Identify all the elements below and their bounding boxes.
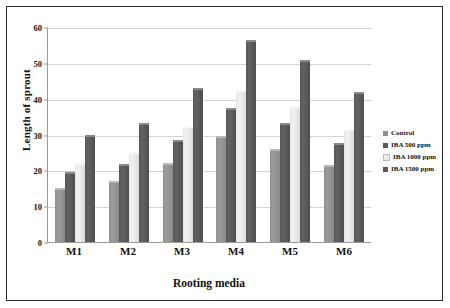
bar-groups [48, 28, 371, 242]
bar-highlight [280, 123, 290, 125]
legend-label: IBA 500 ppm [391, 142, 431, 149]
bar-group-m5 [263, 28, 317, 242]
y-tick-mark [44, 243, 48, 244]
y-tick-label: 20 [34, 166, 43, 176]
chart-figure: Length of sprout 0102030405060 M1M2M3M4M… [0, 0, 450, 308]
bar-m5-series-3 [300, 60, 310, 242]
legend-swatch-icon [383, 143, 388, 148]
legend-swatch-icon [383, 167, 388, 172]
bar-m4-series-1 [226, 108, 236, 242]
bar-highlight [183, 126, 193, 128]
bar-highlight [236, 90, 246, 92]
bar-m6-series-0 [324, 165, 334, 242]
y-tick-label: 40 [34, 95, 43, 105]
bar-m1-series-0 [55, 188, 65, 242]
bar-m4-series-2 [236, 90, 246, 242]
bar-m2-series-2 [129, 152, 139, 242]
legend-label: Control [391, 130, 414, 137]
y-axis-title: Length of sprout [20, 40, 32, 180]
bar-highlight [270, 149, 280, 151]
x-axis-title: Rooting media [47, 277, 371, 289]
bar-highlight [226, 108, 236, 110]
bar-highlight [75, 163, 85, 165]
bar-highlight [344, 129, 354, 131]
bar-m5-series-2 [290, 106, 300, 242]
bar-m5-series-1 [280, 123, 290, 242]
bar-highlight [85, 135, 95, 137]
bar-highlight [290, 106, 300, 108]
x-tick-label-m3: M3 [155, 245, 209, 257]
x-tick-label-m4: M4 [209, 245, 263, 257]
y-tick-label: 30 [34, 131, 43, 141]
legend-swatch-icon [383, 131, 388, 136]
bar-highlight [216, 136, 226, 138]
bar-group-m3 [156, 28, 210, 242]
bar-highlight [129, 152, 139, 154]
y-tick-label: 60 [34, 23, 43, 33]
bar-highlight [324, 165, 334, 167]
bar-m1-series-2 [75, 163, 85, 242]
bar-m6-series-1 [334, 143, 344, 242]
bar-highlight [139, 123, 149, 125]
legend-item-3: IBA 1500 ppm [383, 163, 445, 175]
legend-label: IBA 1000 ppm [393, 154, 436, 161]
x-tick-label-m5: M5 [263, 245, 317, 257]
chart-legend: ControlIBA 500 ppmIBA 1000 ppmIBA 1500 p… [383, 127, 445, 175]
x-axis-tick-labels: M1M2M3M4M5M6 [47, 245, 371, 257]
bar-group-m6 [317, 28, 371, 242]
bar-m1-series-1 [65, 172, 75, 242]
bar-group-m2 [102, 28, 156, 242]
bar-m5-series-0 [270, 149, 280, 242]
legend-swatch-icon [383, 154, 390, 161]
bar-m2-series-3 [139, 123, 149, 242]
y-tick-label: 50 [34, 59, 43, 69]
legend-item-2: IBA 1000 ppm [383, 151, 445, 163]
bar-m2-series-1 [119, 164, 129, 242]
legend-item-1: IBA 500 ppm [383, 139, 445, 151]
bar-m6-series-3 [354, 92, 364, 242]
legend-item-0: Control [383, 127, 445, 139]
bar-highlight [334, 143, 344, 145]
bar-m6-series-2 [344, 129, 354, 242]
bar-highlight [163, 163, 173, 165]
bar-highlight [65, 172, 75, 174]
bar-highlight [193, 88, 203, 90]
bar-highlight [173, 140, 183, 142]
x-tick-label-m6: M6 [317, 245, 371, 257]
bar-highlight [246, 40, 256, 42]
bar-m4-series-0 [216, 136, 226, 242]
bar-group-m4 [209, 28, 263, 242]
x-tick-label-m2: M2 [101, 245, 155, 257]
bar-highlight [119, 164, 129, 166]
bar-m3-series-3 [193, 88, 203, 242]
legend-label: IBA 1500 ppm [391, 166, 434, 173]
bar-highlight [109, 181, 119, 183]
bar-highlight [55, 188, 65, 190]
bar-highlight [300, 60, 310, 62]
x-tick-label-m1: M1 [47, 245, 101, 257]
y-tick-label: 0 [38, 238, 42, 248]
bar-m4-series-3 [246, 40, 256, 242]
bar-m3-series-2 [183, 126, 193, 242]
bar-m2-series-0 [109, 181, 119, 242]
bar-m1-series-3 [85, 135, 95, 242]
bar-m3-series-0 [163, 163, 173, 242]
bar-group-m1 [48, 28, 102, 242]
bar-highlight [354, 92, 364, 94]
y-tick-label: 10 [34, 202, 43, 212]
bar-m3-series-1 [173, 140, 183, 242]
plot-area: 0102030405060 [47, 28, 371, 243]
